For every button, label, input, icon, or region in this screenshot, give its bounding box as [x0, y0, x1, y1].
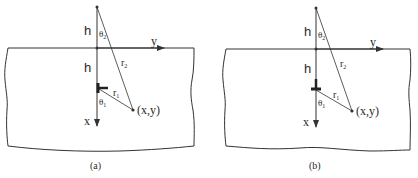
origin-point — [96, 47, 99, 50]
field-point — [131, 108, 134, 111]
label-h-bottom: h — [84, 60, 91, 75]
label-point: (x,y) — [137, 103, 160, 117]
caption-a: (a) — [90, 160, 101, 172]
label-h-top: h — [304, 24, 311, 39]
field-point — [350, 109, 353, 112]
label-x-axis: x — [84, 114, 90, 128]
panel-a: h h θ2 θ1 r2 r1 x y (x,y) (a) — [5, 6, 195, 173]
label-r1: r1 — [113, 87, 119, 99]
label-y-axis: y — [151, 34, 157, 48]
panel-b: h h θ2 θ1 r2 r1 x y (x,y) (b) — [223, 7, 411, 173]
label-r1: r1 — [333, 89, 339, 101]
label-theta1: θ1 — [318, 98, 325, 109]
label-r2: r2 — [340, 58, 346, 70]
half-space-outline — [223, 49, 411, 151]
label-point: (x,y) — [356, 104, 379, 118]
origin-point — [315, 48, 318, 51]
label-y-axis: y — [370, 35, 376, 49]
label-x-axis: x — [303, 115, 309, 129]
caption-b: (b) — [309, 160, 321, 172]
label-h-top: h — [84, 23, 91, 38]
label-r2: r2 — [121, 57, 127, 69]
label-h-bottom: h — [304, 61, 311, 76]
label-theta1: θ1 — [99, 97, 106, 108]
figure-canvas: h h θ2 θ1 r2 r1 x y (x,y) (a) h h θ2 θ1 … — [0, 0, 418, 178]
